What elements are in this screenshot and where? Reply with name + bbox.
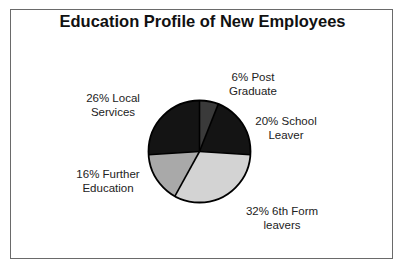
label-line: Education (60, 181, 156, 195)
label-line: 16% Further (60, 167, 156, 181)
label-local-services: 26% Local Services (68, 91, 158, 119)
label-post-graduate: 6% Post Graduate (208, 70, 298, 98)
label-school-leaver: 20% School Leaver (244, 114, 328, 142)
label-line: 20% School (244, 114, 328, 128)
label-line: 26% Local (68, 91, 158, 105)
label-line: Services (68, 105, 158, 119)
label-line: 32% 6th Form (222, 204, 342, 218)
label-further-education: 16% Further Education (60, 167, 156, 195)
label-line: 6% Post (208, 70, 298, 84)
pie-chart (0, 0, 405, 269)
label-6th-form: 32% 6th Form leavers (222, 204, 342, 232)
label-line: Leaver (244, 128, 328, 142)
label-line: leavers (222, 218, 342, 232)
label-line: Graduate (208, 84, 298, 98)
